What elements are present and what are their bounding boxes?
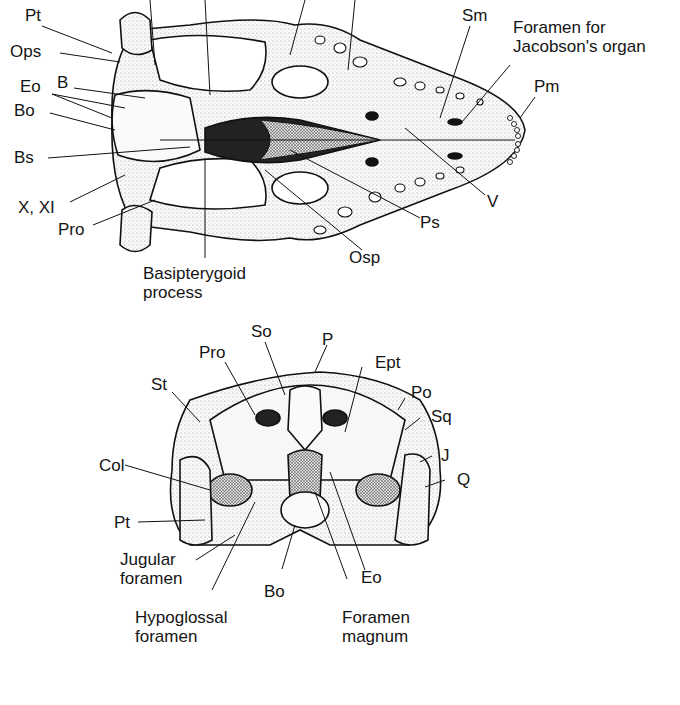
label-ops: Ops — [10, 42, 41, 61]
label-osp: Osp — [349, 248, 380, 267]
label-pm: Pm — [534, 77, 560, 96]
label-bo-posterior: Bo — [264, 582, 285, 601]
label-sq: Sq — [431, 407, 452, 426]
label-pro-ventral: Pro — [58, 220, 84, 239]
label-basipterygoid-process: Basipterygoid process — [143, 264, 246, 302]
label-sm: Sm — [462, 6, 488, 25]
label-hypoglossal-foramen: Hypoglossal foramen — [135, 608, 228, 646]
label-x-xi: X, XI — [18, 198, 55, 217]
label-pro-posterior: Pro — [199, 343, 225, 362]
label-bs: Bs — [14, 148, 34, 167]
label-col: Col — [99, 456, 125, 475]
label-foramen-magnum: Foramen magnum — [342, 608, 410, 646]
label-p: P — [322, 330, 333, 349]
label-pt: Pt — [25, 6, 41, 25]
label-eo-ventral: Eo — [20, 77, 41, 96]
label-foramen-jacobsons-organ: Foramen for Jacobson's organ — [513, 18, 646, 56]
label-po: Po — [411, 383, 432, 402]
label-jugular-foramen: Jugular foramen — [120, 550, 182, 588]
label-bo-ventral: Bo — [14, 101, 35, 120]
label-q: Q — [457, 470, 470, 489]
label-j: J — [441, 446, 450, 465]
label-st: St — [151, 375, 167, 394]
label-pt-posterior: Pt — [114, 513, 130, 532]
label-so: So — [251, 322, 272, 341]
label-ept: Ept — [375, 353, 401, 372]
label-eo-posterior: Eo — [361, 568, 382, 587]
skull-illustration — [0, 0, 680, 705]
label-v: V — [487, 192, 498, 211]
posterior-skull-view — [170, 372, 440, 545]
label-ps: Ps — [420, 213, 440, 232]
label-b: B — [57, 73, 68, 92]
